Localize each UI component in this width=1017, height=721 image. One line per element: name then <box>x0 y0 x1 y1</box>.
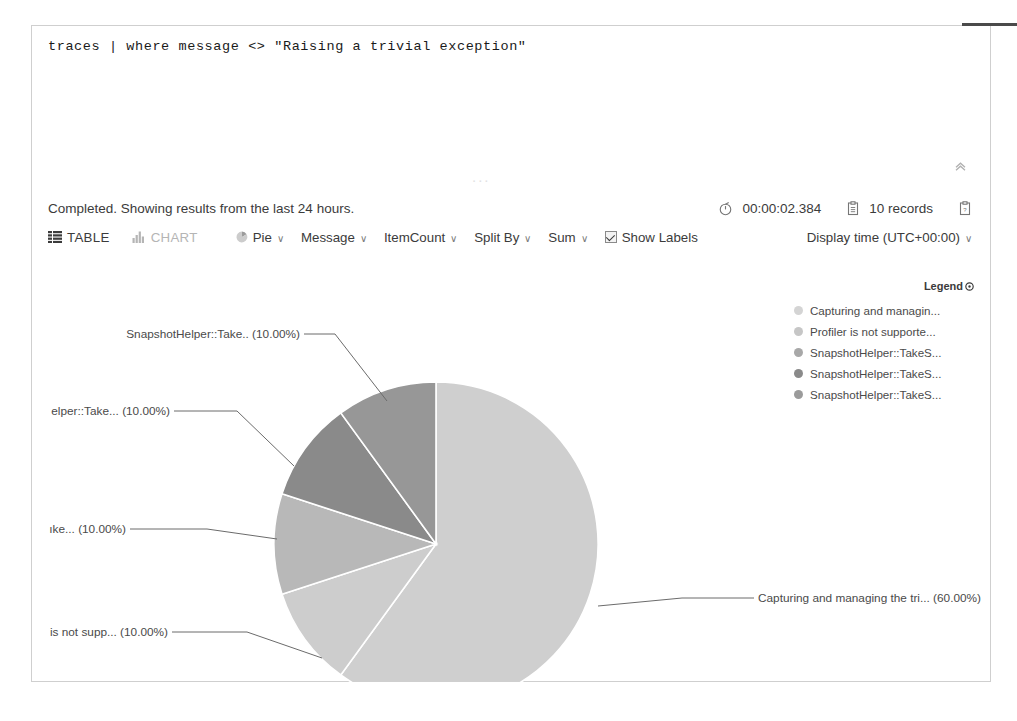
legend-item[interactable]: SnapshotHelper::TakeS... <box>794 363 974 384</box>
table-icon <box>48 231 62 243</box>
leader-line-mid-left-upper <box>174 411 294 466</box>
pie-label-top-left: SnapshotHelper::Take.. (10.00%) <box>126 327 300 341</box>
leader-line-right <box>598 598 754 606</box>
double-chevron-up-icon <box>953 159 968 174</box>
legend-item-label: Profiler is not supporte... <box>810 325 936 338</box>
chart-canvas: SnapshotHelper::Take.. (10.00%) elper::T… <box>32 254 990 682</box>
legend-item[interactable]: SnapshotHelper::TakeS... <box>794 342 974 363</box>
chevron-down-icon: ∨ <box>277 233 284 244</box>
tab-table[interactable]: TABLE <box>48 230 110 245</box>
status-message: Completed. Showing results from the last… <box>48 201 354 216</box>
query-editor[interactable]: traces | where message <> "Raising a tri… <box>32 26 990 166</box>
show-labels-checkbox[interactable] <box>605 231 617 243</box>
legend-item-label: SnapshotHelper::TakeS... <box>810 388 941 401</box>
query-text[interactable]: traces | where message <> "Raising a tri… <box>48 39 974 54</box>
bar-chart-icon <box>132 231 146 243</box>
tab-chart[interactable]: CHART <box>132 230 198 245</box>
status-meta: 00:00:02.384 10 records ? <box>718 201 972 216</box>
chart-toolbar: TABLE CHART <box>32 222 990 252</box>
editor-resize-grip[interactable]: ... <box>472 169 491 184</box>
pie-label-mid-left-upper: elper::Take... (10.00%) <box>51 404 170 418</box>
legend-item-label: SnapshotHelper::TakeS... <box>810 346 941 359</box>
legend-title-label: Legend <box>924 280 963 292</box>
chevron-down-icon: ∨ <box>581 233 588 244</box>
x-field-label: Message <box>301 230 355 245</box>
legend-item[interactable]: SnapshotHelper::TakeS... <box>794 384 974 405</box>
legend-item-label: Capturing and managin... <box>810 304 940 317</box>
show-labels-label: Show Labels <box>622 230 698 245</box>
query-results-page: traces | where message <> "Raising a tri… <box>0 0 1017 721</box>
split-by-dropdown[interactable]: Split By ∨ <box>474 230 531 245</box>
pie-label-bottom-left: is not supp... (10.00%) <box>50 625 168 639</box>
tab-table-label: TABLE <box>67 230 110 245</box>
tab-chart-label: CHART <box>151 230 198 245</box>
legend-item[interactable]: Profiler is not supporte... <box>794 321 974 342</box>
leader-line-bottom-left <box>172 632 322 658</box>
status-row: Completed. Showing results from the last… <box>32 194 990 222</box>
clipboard-icon <box>846 201 860 216</box>
pie-label-right: Capturing and managing the tri... (60.00… <box>758 591 981 605</box>
legend-item[interactable]: Capturing and managin... <box>794 300 974 321</box>
show-labels-toggle[interactable]: Show Labels <box>605 230 698 245</box>
aggregation-label: Sum <box>548 230 575 245</box>
svg-text:?: ? <box>963 206 967 212</box>
chart-type-label: Pie <box>253 230 272 245</box>
legend-swatch <box>794 390 803 399</box>
pie-chart-icon <box>236 231 248 243</box>
query-duration: 00:00:02.384 <box>742 201 821 216</box>
leader-line-mid-left-lower <box>130 529 277 539</box>
chevron-down-icon: ∨ <box>450 233 457 244</box>
results-panel: traces | where message <> "Raising a tri… <box>31 25 991 682</box>
chart-type-dropdown[interactable]: Pie ∨ <box>236 230 284 245</box>
y-field-dropdown[interactable]: ItemCount ∨ <box>384 230 457 245</box>
legend-item-label: SnapshotHelper::TakeS... <box>810 367 941 380</box>
chevron-down-icon: ∨ <box>360 233 367 244</box>
leader-line-top-left <box>304 334 387 401</box>
chevron-down-icon: ∨ <box>965 233 972 244</box>
legend-swatch <box>794 327 803 336</box>
legend-title: Legend <box>794 280 974 292</box>
timer-icon <box>718 201 733 216</box>
display-time-label: Display time (UTC+00:00) <box>807 230 960 245</box>
collapse-editor-button[interactable] <box>947 153 973 179</box>
record-count: 10 records <box>869 201 933 216</box>
gear-icon[interactable] <box>965 282 974 291</box>
x-field-dropdown[interactable]: Message ∨ <box>301 230 367 245</box>
copy-icon[interactable]: ? <box>958 201 972 216</box>
legend-swatch <box>794 348 803 357</box>
chevron-down-icon: ∨ <box>524 233 531 244</box>
display-time-dropdown[interactable]: Display time (UTC+00:00) ∨ <box>807 230 972 245</box>
pie-label-mid-left-lower: ıke... (10.00%) <box>49 522 126 536</box>
legend-swatch <box>794 369 803 378</box>
y-field-label: ItemCount <box>384 230 445 245</box>
split-by-label: Split By <box>474 230 519 245</box>
legend-swatch <box>794 306 803 315</box>
aggregation-dropdown[interactable]: Sum ∨ <box>548 230 587 245</box>
chart-legend: Legend Capturing and managin... Profiler… <box>794 280 974 405</box>
